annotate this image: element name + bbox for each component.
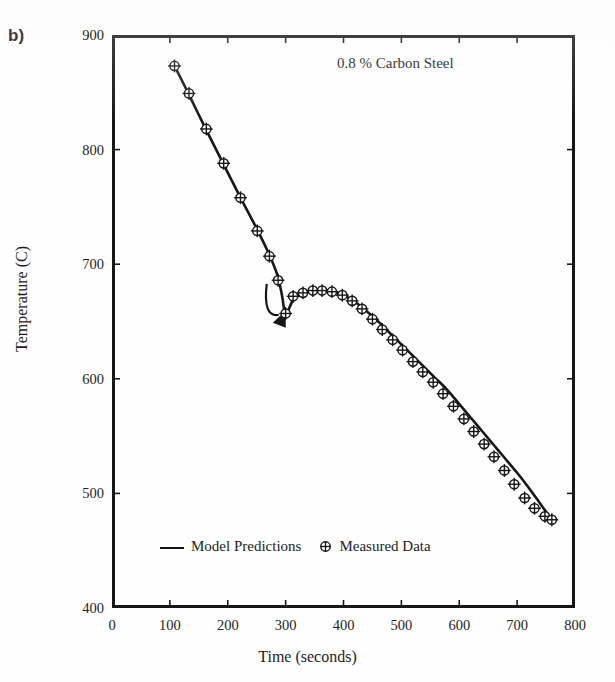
data-point-marker-circle-plus [366,313,379,326]
panel-label: b) [8,26,24,46]
plot-area: 0.8 % Carbon Steel Model Predictions Mea… [112,35,575,608]
data-series-layer [112,35,575,608]
data-point-marker-circle-plus [386,333,399,346]
x-tick-label: 500 [391,617,413,634]
y-tick-label: 700 [56,256,104,273]
data-point-marker-circle-plus [326,285,339,298]
data-point-marker-circle-plus [272,274,285,287]
y-tick-label: 800 [56,141,104,158]
data-point-marker-circle-plus [183,87,196,100]
data-point-marker-circle-plus [217,157,230,170]
data-point-marker-circle-plus [336,289,349,302]
data-point-marker-circle-plus [508,478,521,491]
data-point-marker-circle-plus [316,284,329,297]
data-point-marker-circle-plus [407,355,420,368]
x-tick-label: 400 [333,617,355,634]
legend-label-model: Model Predictions [191,538,301,555]
line-segment-icon [160,547,184,549]
x-tick-label: 800 [564,617,586,634]
chart-annotation-carbon-steel: 0.8 % Carbon Steel [337,55,454,72]
data-point-marker-circle-plus [168,60,181,73]
data-point-marker-circle-plus [396,344,409,357]
x-tick-label: 300 [275,617,297,634]
data-point-marker-circle-plus [297,286,310,299]
y-tick-label: 900 [56,27,104,44]
legend-label-measured: Measured Data [339,538,430,555]
x-axis-title: Time (seconds) [0,648,615,666]
legend-entry-model: Model Predictions [160,538,301,555]
x-tick-label: 700 [506,617,528,634]
data-point-marker-circle-plus [376,323,389,336]
data-point-marker-circle-plus [287,290,300,303]
chart-legend: Model Predictions Measured Data [160,538,431,555]
y-tick-label: 600 [56,370,104,387]
legend-entry-measured: Measured Data [319,538,430,555]
x-tick-label: 600 [448,617,470,634]
data-point-marker-circle-plus [416,366,429,379]
x-tick-label: 100 [159,617,181,634]
data-point-marker-circle-plus [251,225,264,238]
y-tick-label: 400 [56,600,104,617]
x-tick-label: 200 [217,617,239,634]
data-point-marker-circle-plus [518,492,531,505]
y-axis-title: Temperature (C) [13,139,31,459]
y-tick-label: 500 [56,485,104,502]
data-point-marker-circle-plus [427,376,440,389]
data-point-marker-circle-plus [498,464,511,477]
figure-panel: b) 0.8 % Carbon Steel Model Predictions … [0,0,615,682]
x-tick-label: 0 [108,617,115,634]
circle-plus-icon [319,540,332,553]
data-point-marker-circle-plus [234,191,247,204]
data-point-marker-circle-plus [263,250,276,263]
data-point-marker-circle-plus [200,123,213,136]
